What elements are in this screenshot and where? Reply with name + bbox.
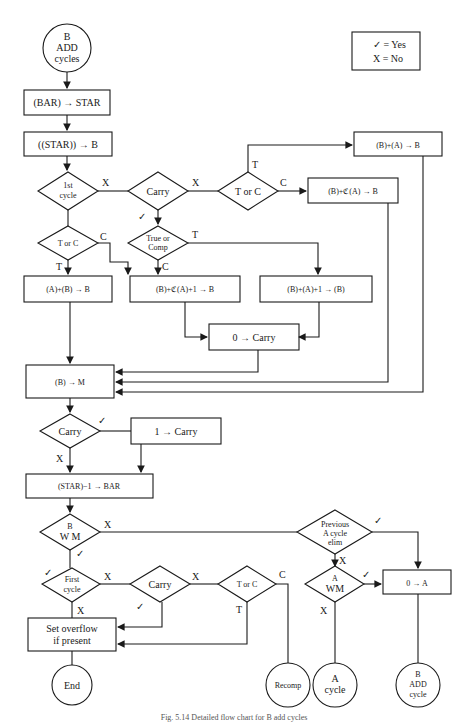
edge-check: ✓ (136, 601, 144, 612)
edge-c: C (100, 231, 107, 242)
carry-label-1: Carry (147, 186, 170, 197)
set-overflow-label: Set overflow (46, 623, 98, 634)
edge-c: C (279, 569, 286, 580)
edge-check: ✓ (374, 515, 382, 526)
edge-t: T (192, 229, 198, 240)
edge-t: T (236, 604, 242, 615)
previous-a-cycle-label: elim (328, 538, 343, 547)
a-cycle-label: A (331, 673, 339, 684)
first-cycle-label-2: cycle (64, 585, 81, 594)
edge-t: T (56, 261, 62, 272)
legend-box (352, 32, 420, 70)
b-add-cycle-label: cycle (410, 690, 427, 699)
b-to-m-label: (B) → M (55, 378, 85, 387)
edge-labels: X X T C C T ✓ T C ✓ X X ✓ ✓ X ✓ X ✓ X X … (44, 159, 382, 616)
star-to-b-label: ((STAR)) → B (38, 139, 98, 151)
edge-check: ✓ (362, 569, 370, 580)
first-cycle-label: 1st (63, 181, 73, 190)
first-cycle-label-2: First (65, 575, 80, 584)
edge-c: C (162, 261, 169, 272)
edge-x: X (104, 519, 112, 530)
a-wm-label: WM (326, 583, 344, 594)
b-add-cycle-label: B (415, 670, 420, 679)
edge-check: ✓ (98, 415, 106, 426)
figure-caption: Fig. 5.14 Detailed flow chart for B add … (161, 713, 308, 722)
previous-a-cycle-label: A cycle (323, 529, 348, 538)
legend-no: X = No (373, 53, 403, 64)
edge-check: ✓ (44, 567, 52, 578)
edge-x: X (104, 571, 112, 582)
carry-label-3: Carry (149, 579, 172, 590)
start-label: ADD (56, 42, 78, 53)
a-plus-b-label: (A)+(B) → B (46, 285, 90, 294)
edge-c: C (280, 177, 287, 188)
edge-x: X (192, 177, 200, 188)
first-cycle-label: cycle (60, 191, 77, 200)
b-wm-label: W M (60, 531, 81, 542)
b-plus-comp-a-label: (B)+ℭ(A) → B (328, 187, 378, 196)
t-or-c-label-top: T or C (235, 186, 261, 197)
b-plus-a-plus-1-label: (B)+(A)+1 → (B) (287, 285, 345, 294)
legend-yes: ✓ = Yes (373, 39, 406, 50)
one-to-carry-label: 1 → Carry (155, 426, 198, 437)
edge-x: X (320, 605, 328, 616)
zero-to-carry-label: 0 → Carry (233, 332, 276, 343)
b-wm-label: B (67, 522, 72, 531)
recomp-label: Recomp (275, 681, 302, 690)
a-wm-label: A (332, 574, 338, 583)
true-or-comp-label: Comp (148, 243, 168, 252)
edge-x: X (192, 571, 200, 582)
carry-label-2: Carry (59, 426, 82, 437)
edge-x: X (339, 555, 347, 566)
set-overflow-label: if present (53, 635, 91, 646)
previous-a-cycle-label: Previous (321, 520, 349, 529)
b-plus-comp-a-plus-1-label: (B)+ℭ(A)+1 → B (156, 285, 214, 294)
zero-to-a-label: 0 → A (406, 579, 428, 588)
flowchart: ✓ = Yes X = No B ADD cycles (BAR) → STAR… (0, 0, 468, 726)
true-or-comp-label: True or (146, 234, 170, 243)
edge-check: ✓ (138, 211, 146, 222)
t-or-c-label-left: T or C (58, 239, 79, 248)
t-or-c-label-bottom: T or C (237, 580, 258, 589)
star-minus-1-label: (STAR)−1 → BAR (58, 482, 121, 491)
edge-x: X (56, 453, 64, 464)
start-label: cycles (55, 53, 80, 64)
b-add-cycle-label: ADD (409, 680, 427, 689)
edge-x: X (102, 177, 110, 188)
end-label: End (64, 680, 80, 691)
a-cycle-label: cycle (324, 684, 346, 695)
b-plus-a-label: (B)+(A) → B (376, 141, 420, 150)
edge-x: X (77, 605, 85, 616)
bar-to-star-label: (BAR) → STAR (34, 97, 101, 109)
edge-check: ✓ (76, 548, 84, 559)
start-label: B (64, 31, 71, 42)
edge-t: T (252, 159, 258, 170)
